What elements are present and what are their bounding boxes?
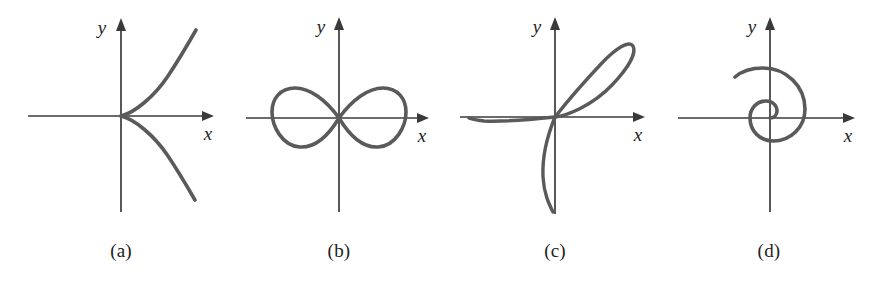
y-axis-arrowhead xyxy=(550,17,560,30)
curve-upper-branch xyxy=(121,30,196,116)
x-axis-label: x xyxy=(203,123,213,144)
axes-d xyxy=(678,17,855,212)
x-axis-arrowhead xyxy=(202,111,214,121)
panel-d: y x (d) xyxy=(658,0,880,284)
x-axis-label: x xyxy=(417,125,427,146)
x-axis-arrowhead xyxy=(843,113,855,123)
panel-b: y x (b) xyxy=(228,0,450,284)
y-axis-label: y xyxy=(96,17,107,38)
panel-c: y x (c) xyxy=(444,0,666,284)
curve-lower-branch xyxy=(121,116,195,200)
panel-d-plot: y x xyxy=(658,0,880,230)
panel-d-caption: (d) xyxy=(658,240,880,262)
panel-d-svg: y x xyxy=(658,0,880,230)
y-axis-arrowhead xyxy=(765,17,775,30)
y-axis-label: y xyxy=(746,16,757,37)
y-axis-label: y xyxy=(315,16,326,37)
x-axis-arrowhead xyxy=(633,112,645,122)
panel-a-plot: y x xyxy=(10,0,232,230)
panel-a: y x (a) xyxy=(10,0,232,284)
y-axis-arrowhead xyxy=(334,17,344,30)
panel-b-svg: y x xyxy=(228,0,450,230)
panel-b-caption: (b) xyxy=(228,240,450,262)
x-axis-arrowhead xyxy=(417,113,429,123)
panel-b-plot: y x xyxy=(228,0,450,230)
curve-a-semicubical-parabola xyxy=(121,30,196,200)
axes-c xyxy=(460,17,645,214)
panel-a-svg: y x xyxy=(10,0,232,230)
loop-first-quadrant xyxy=(555,44,634,117)
panel-c-caption: (c) xyxy=(444,240,666,262)
panel-a-caption: (a) xyxy=(10,240,232,262)
panel-c-plot: y x xyxy=(444,0,666,230)
x-axis-label: x xyxy=(633,124,643,145)
y-axis-arrowhead xyxy=(116,18,126,31)
x-axis-label: x xyxy=(843,125,853,146)
curve-c-looped-cubic xyxy=(469,44,634,212)
down-tail xyxy=(543,117,555,212)
panel-c-svg: y x xyxy=(444,0,666,230)
y-axis-label: y xyxy=(531,16,542,37)
figure-container: y x (a) y x xyxy=(0,0,890,284)
